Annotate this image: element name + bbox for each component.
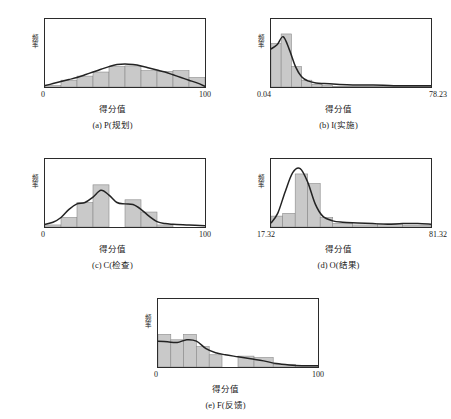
panel-d: 频率 17.32 81.32 得分值 (d) O(结果) (226, 140, 451, 280)
histogram-svg-a (45, 19, 205, 87)
histogram-bar (141, 71, 157, 87)
histogram-bar (209, 355, 222, 367)
y-axis-label: 频率 (26, 174, 38, 188)
histogram-bar (283, 213, 296, 227)
y-axis-label: 频率 (26, 34, 38, 48)
x-axis-label-e: 得分值 (113, 384, 338, 394)
histogram-bar (77, 76, 93, 87)
x-tick-max-e: 100 (312, 370, 324, 379)
histogram-bar (157, 225, 173, 227)
plot-area-b (270, 18, 432, 88)
histogram-bar (158, 334, 171, 367)
histogram-bar (45, 225, 61, 227)
panel-e: 频率 0 100 得分值 (e) F(反馈) (113, 280, 338, 419)
x-tick-max-c: 100 (199, 230, 211, 239)
x-tick-max-d: 81.32 (429, 230, 447, 239)
plot-area-a (44, 18, 206, 88)
histogram-bar (125, 66, 141, 87)
histogram-bar (322, 86, 332, 87)
panel-caption-a: (a) P(规划) (0, 120, 225, 130)
plot-area-d (270, 158, 432, 228)
x-tick-min-e: 0 (154, 370, 158, 379)
histogram-svg-b (271, 19, 431, 87)
x-tick-max-a: 100 (199, 90, 211, 99)
x-axis-label-d: 得分值 (226, 244, 451, 254)
bars-b (271, 34, 431, 87)
histogram-bar (403, 226, 431, 227)
panel-b: 频率 0.04 78.23 得分值 (b) I(实施) (226, 0, 451, 140)
histogram-bar (308, 183, 321, 227)
histogram-bar (61, 217, 77, 227)
histogram-bar (333, 224, 353, 227)
x-axis-label-c: 得分值 (0, 244, 225, 254)
histogram-bar (171, 340, 184, 367)
panel-caption-d: (d) O(结果) (226, 260, 451, 270)
figure-sheet: 频率 0 100 得分值 (a) P(规划) 频率 0.04 78.23 得分值… (0, 0, 451, 419)
y-axis-label: 频率 (252, 34, 264, 48)
panel-caption-b: (b) I(实施) (226, 120, 451, 130)
plot-area-e (157, 298, 319, 368)
histogram-bar (353, 225, 378, 227)
panel-caption-e: (e) F(反馈) (113, 400, 338, 410)
y-axis-label: 频率 (139, 314, 151, 328)
histogram-svg-e (158, 299, 318, 367)
panel-a: 频率 0 100 得分值 (a) P(规划) (0, 0, 225, 140)
histogram-svg-d (271, 159, 431, 227)
x-tick-min-c: 0 (41, 230, 45, 239)
x-axis-label-b: 得分值 (226, 104, 451, 114)
x-tick-max-b: 78.23 (429, 90, 447, 99)
panel-caption-c: (c) C(检查) (0, 260, 225, 270)
bars-a (45, 66, 205, 87)
x-tick-min-d: 17.32 (257, 230, 275, 239)
histogram-bar (295, 174, 308, 227)
histogram-bar (77, 203, 93, 227)
bars-d (271, 174, 431, 227)
x-axis-label-a: 得分值 (0, 104, 225, 114)
histogram-bar (312, 84, 322, 87)
y-axis-label: 频率 (252, 174, 264, 188)
bars-e (158, 334, 318, 367)
histogram-bar (93, 185, 109, 227)
bars-c (45, 185, 173, 227)
histogram-bar (109, 67, 125, 87)
plot-area-c (44, 158, 206, 228)
panel-c: 频率 0 100 得分值 (c) C(检查) (0, 140, 225, 280)
histogram-bar (332, 86, 431, 87)
histogram-bar (93, 72, 109, 87)
x-tick-min-b: 0.04 (257, 90, 271, 99)
histogram-bar (271, 43, 281, 87)
histogram-svg-c (45, 159, 205, 227)
histogram-bar (45, 86, 61, 87)
x-tick-min-a: 0 (41, 90, 45, 99)
